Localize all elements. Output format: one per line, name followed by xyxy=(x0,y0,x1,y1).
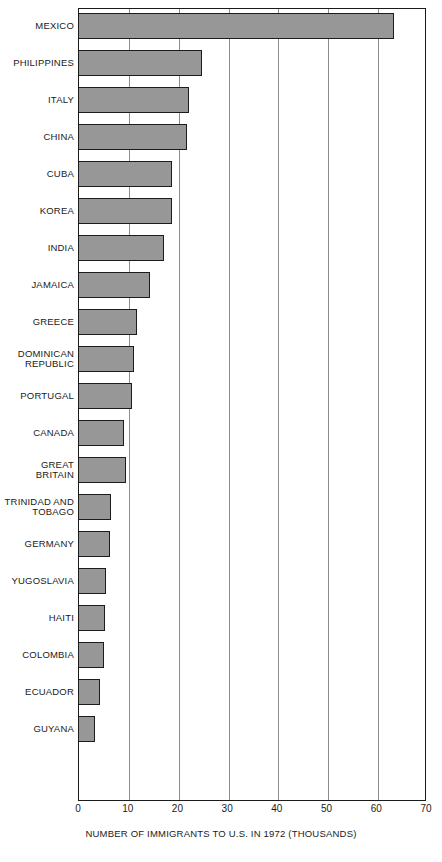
x-tick-label: 40 xyxy=(262,803,292,814)
bar xyxy=(78,605,105,631)
bar-row: CUBA xyxy=(0,156,442,193)
bar-category-label: TRINIDAD AND TOBAGO xyxy=(0,497,74,518)
x-tick-label: 70 xyxy=(411,803,441,814)
bar xyxy=(78,309,137,335)
bar xyxy=(78,198,172,224)
x-tick-label: 10 xyxy=(113,803,143,814)
x-tick-label: 60 xyxy=(361,803,391,814)
bar-category-label: HAITI xyxy=(0,613,74,624)
bar xyxy=(78,50,202,76)
bar xyxy=(78,457,126,483)
bar-row: HAITI xyxy=(0,600,442,637)
bar-row: CANADA xyxy=(0,415,442,452)
bar-category-label: GREAT BRITAIN xyxy=(0,460,74,481)
bar-category-label: DOMINICAN REPUBLIC xyxy=(0,349,74,370)
bar xyxy=(78,679,100,705)
bar-row: KOREA xyxy=(0,193,442,230)
bar-row: MEXICO xyxy=(0,8,442,45)
bar xyxy=(78,161,172,187)
immigration-bar-chart: MEXICOPHILIPPINESITALYCHINACUBAKOREAINDI… xyxy=(0,0,442,862)
bar-row: COLOMBIA xyxy=(0,637,442,674)
bar-category-label: CANADA xyxy=(0,428,74,439)
bar xyxy=(78,568,106,594)
bar xyxy=(78,642,104,668)
bar xyxy=(78,13,394,39)
bar-category-label: GREECE xyxy=(0,317,74,328)
bar xyxy=(78,716,95,742)
bar xyxy=(78,531,110,557)
bar xyxy=(78,494,111,520)
bar-row: INDIA xyxy=(0,230,442,267)
bar-row: GREECE xyxy=(0,304,442,341)
x-axis-title: NUMBER OF IMMIGRANTS TO U.S. IN 1972 (TH… xyxy=(0,828,442,839)
bar-row: PORTUGAL xyxy=(0,378,442,415)
bar-category-label: PHILIPPINES xyxy=(0,58,74,69)
bar xyxy=(78,420,124,446)
bar-row: JAMAICA xyxy=(0,267,442,304)
bar-row: GERMANY xyxy=(0,526,442,563)
bar xyxy=(78,87,189,113)
bar-row: DOMINICAN REPUBLIC xyxy=(0,341,442,378)
bar xyxy=(78,346,134,372)
x-tick-label: 30 xyxy=(212,803,242,814)
bar-row: GUYANA xyxy=(0,711,442,748)
bar-row: ECUADOR xyxy=(0,674,442,711)
bar-category-label: KOREA xyxy=(0,206,74,217)
x-tick-label: 50 xyxy=(312,803,342,814)
x-axis-ticks: 010203040506070 xyxy=(0,803,442,821)
bar-category-label: INDIA xyxy=(0,243,74,254)
bar-category-label: CUBA xyxy=(0,169,74,180)
bar-row: ITALY xyxy=(0,82,442,119)
bar-category-label: GERMANY xyxy=(0,539,74,550)
bar xyxy=(78,124,187,150)
bar-row: TRINIDAD AND TOBAGO xyxy=(0,489,442,526)
bar-category-label: YUGOSLAVIA xyxy=(0,576,74,587)
bar-category-label: ECUADOR xyxy=(0,687,74,698)
x-tick-label: 0 xyxy=(63,803,93,814)
bar xyxy=(78,272,150,298)
bar-row: PHILIPPINES xyxy=(0,45,442,82)
bar-category-label: ITALY xyxy=(0,95,74,106)
bar-category-label: MEXICO xyxy=(0,21,74,32)
x-tick-label: 20 xyxy=(162,803,192,814)
bar xyxy=(78,383,132,409)
bar-category-label: CHINA xyxy=(0,132,74,143)
bar-row: CHINA xyxy=(0,119,442,156)
bar-row: GREAT BRITAIN xyxy=(0,452,442,489)
bar-category-label: PORTUGAL xyxy=(0,391,74,402)
bar-category-label: JAMAICA xyxy=(0,280,74,291)
bar-category-label: COLOMBIA xyxy=(0,650,74,661)
bar xyxy=(78,235,164,261)
bar-category-label: GUYANA xyxy=(0,724,74,735)
bar-rows: MEXICOPHILIPPINESITALYCHINACUBAKOREAINDI… xyxy=(0,8,442,801)
bar-row: YUGOSLAVIA xyxy=(0,563,442,600)
